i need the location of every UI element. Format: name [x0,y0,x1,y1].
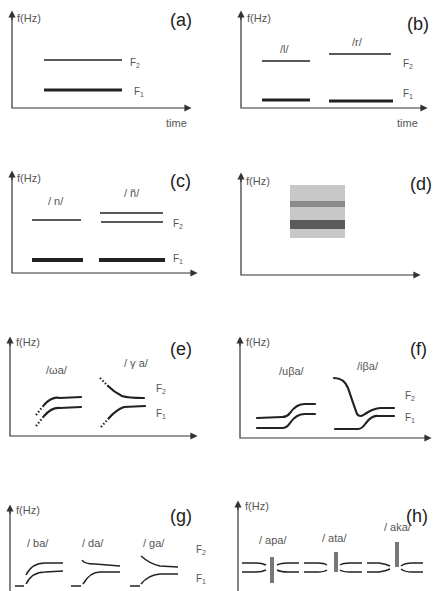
f1-label: F1 [196,573,206,585]
y-axis-label: f(Hz) [247,12,271,24]
panel-a: f(Hz) (a) F2 F1 time [12,10,192,129]
f1-label: F1 [134,86,144,98]
burst-bar [395,542,399,567]
panel-label-f: (f) [410,339,427,359]
panel-label-e: (e) [170,339,192,359]
panel-f: f(Hz) (f) /uβa/ /iβa/ F2 F1 [240,336,428,438]
f2-label: F2 [403,58,413,70]
panel-label-b: (b) [407,14,429,34]
panel-c: f(Hz) (c) / n/ / ñ/ F2 F1 [12,171,194,273]
segment-label: /r/ [352,36,363,48]
acoustic-formant-figure: f(Hz) (a) F2 F1 time f(Hz) (b) /l/ /r/ F… [0,0,435,591]
f2-label: F2 [173,218,183,230]
segment-label: /iβa/ [357,360,379,372]
segment-label: / ga/ [143,537,165,549]
segment-label: / apa/ [259,534,287,546]
segment-label: /uβa/ [279,365,305,377]
segment-label: / da/ [82,537,104,549]
f1-label: F1 [405,412,415,424]
f2-band [290,201,345,207]
segment-label: / γ a/ [124,357,149,369]
y-axis-label: f(Hz) [16,336,40,348]
f2-label: F2 [196,544,206,556]
f2-label: F2 [156,383,166,395]
burst-bar [334,552,338,572]
y-axis-label: f(Hz) [17,12,41,24]
f1-label: F1 [173,253,183,265]
panel-h: f(Hz) (h) / apa/ / ata/ / aka/ [238,500,428,591]
panel-label-a: (a) [170,10,192,30]
x-axis-label: time [397,117,418,129]
y-axis-label: f(Hz) [245,500,269,512]
y-axis-label: f(Hz) [16,504,40,516]
x-axis-label: time [166,117,187,129]
f2-label: F2 [130,57,140,69]
panel-g: f(Hz) (g) / ba/ / da/ / ga/ F2 F1 [10,504,206,591]
y-axis-label: f(Hz) [246,175,270,187]
f1-label: F1 [156,408,166,420]
f1-label: F1 [403,88,413,100]
segment-label: / ñ/ [124,187,140,199]
panel-label-d: (d) [410,174,432,194]
panel-label-g: (g) [170,506,192,526]
panel-label-c: (c) [170,171,191,191]
burst-bar [270,557,274,583]
spectrogram-block [290,185,345,238]
segment-label: / ba/ [27,537,49,549]
axes-a [12,16,188,108]
f2-label: F2 [405,390,415,402]
f1-band [290,220,345,229]
y-axis-label: f(Hz) [17,172,41,184]
y-axis-label: f(Hz) [246,336,270,348]
segment-label: / aka/ [384,521,412,533]
panel-d: f(Hz) (d) [241,174,432,275]
panel-e: f(Hz) (e) /ωa/ / γ a/ F2 F1 [10,336,194,436]
segment-label: /l/ [280,43,290,55]
segment-label: / ata/ [322,532,347,544]
segment-label: /ωa/ [46,364,68,376]
segment-label: / n/ [48,195,64,207]
panel-b: f(Hz) (b) /l/ /r/ F2 F1 time [241,12,429,129]
